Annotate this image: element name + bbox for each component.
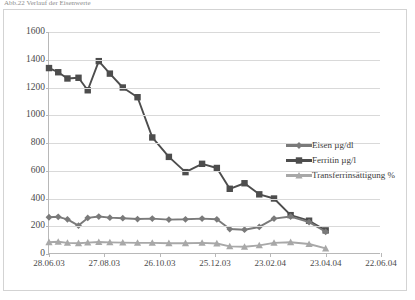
data-point-marker (165, 216, 172, 223)
data-point-marker (241, 180, 247, 186)
x-axis-tick-mark (215, 253, 216, 257)
x-axis-tick-mark (160, 253, 161, 257)
gridline (49, 115, 380, 116)
y-axis-tick-label: 1000 (26, 111, 45, 121)
y-axis-tick-label: 600 (31, 166, 45, 176)
x-axis-tick-label: 22.06.04 (365, 259, 397, 268)
series-triangle (45, 238, 329, 251)
x-axis-tick-label: 23.02.04 (255, 259, 287, 268)
legend-item-label: Ferritin µg/l (312, 156, 356, 165)
data-point-marker (149, 215, 156, 222)
x-axis-tick-label: 26.10.03 (144, 259, 176, 268)
legend-item[interactable]: Transferrinsättigung % (286, 168, 411, 183)
data-point-marker (55, 69, 61, 75)
y-axis-tick-mark (46, 60, 49, 61)
legend-item[interactable]: Eisen µg/dl (286, 138, 411, 153)
y-axis-tick-label: 1200 (26, 83, 45, 93)
legend-swatch-diamond-icon (286, 140, 312, 151)
y-axis-tick-label: 1600 (26, 27, 45, 37)
x-axis-tick-label: 23.04.04 (310, 259, 342, 268)
data-point-marker (95, 213, 102, 220)
data-point-marker (227, 186, 233, 192)
gridline (49, 226, 380, 227)
data-point-marker (199, 161, 205, 167)
data-point-marker (241, 226, 248, 233)
y-axis-tick-mark (46, 115, 49, 116)
y-axis-tick-mark (46, 32, 49, 33)
data-point-marker (296, 142, 303, 149)
data-point-marker (199, 215, 206, 222)
y-axis-tick-mark (46, 199, 49, 200)
x-axis-tick-mark (49, 253, 50, 257)
data-point-marker (134, 94, 140, 100)
x-axis-tick-mark (326, 253, 327, 257)
y-axis-tick-label: 200 (31, 222, 45, 232)
data-point-marker (296, 157, 302, 163)
legend-swatch-square-icon (286, 155, 312, 166)
chart-page: Abb.22 Verlauf der Eisenwerte 0200400600… (0, 0, 415, 300)
gridline (49, 32, 380, 33)
data-point-marker (107, 70, 113, 76)
x-axis-tick-mark (270, 253, 271, 257)
gridline (49, 199, 380, 200)
y-axis-tick-label: 400 (31, 194, 45, 204)
x-axis-tick-label: 27.08.03 (89, 259, 121, 268)
data-point-marker (256, 191, 262, 197)
y-axis-tick-mark (46, 88, 49, 89)
gridline (49, 88, 380, 89)
legend-item-label: Transferrinsättigung % (312, 171, 395, 180)
data-point-marker (182, 216, 189, 223)
data-point-marker (46, 214, 53, 221)
legend-item-label: Eisen µg/dl (312, 141, 353, 150)
series-diamond (46, 213, 329, 235)
data-point-marker (46, 65, 52, 71)
y-axis-tick-label: 1400 (26, 55, 45, 65)
x-axis-tick-label: 25.12.03 (199, 259, 231, 268)
chart-legend: Eisen µg/dlFerritin µg/lTransferrinsätti… (286, 138, 411, 183)
legend-swatch-triangle-icon (286, 170, 312, 181)
data-point-marker (119, 215, 126, 222)
y-axis-tick-mark (46, 226, 49, 227)
legend-item[interactable]: Ferritin µg/l (286, 153, 411, 168)
figure-title: Abb.22 Verlauf der Eisenwerte (4, 0, 184, 7)
data-point-marker (166, 154, 172, 160)
y-axis-tick-mark (46, 143, 49, 144)
data-point-marker (149, 134, 155, 140)
data-point-marker (106, 214, 113, 221)
chart-frame: 0200400600800100012001400160028.06.0327.… (3, 9, 407, 291)
data-point-marker (295, 172, 302, 179)
x-axis-tick-label: 28.06.03 (33, 259, 65, 268)
data-point-marker (55, 213, 62, 220)
data-point-marker (134, 216, 141, 223)
y-axis-tick-label: 800 (31, 138, 45, 148)
gridline (49, 60, 380, 61)
x-axis-tick-mark (104, 253, 105, 257)
data-point-marker (64, 75, 70, 81)
data-point-marker (75, 75, 81, 81)
y-axis-tick-mark (46, 171, 49, 172)
x-axis-tick-mark (381, 253, 382, 257)
